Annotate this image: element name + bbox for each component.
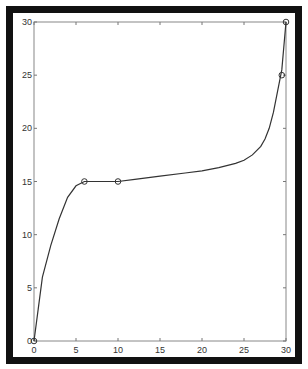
- line-chart: 051015202530051015202530: [0, 0, 308, 369]
- x-tick-label: 25: [239, 345, 249, 355]
- y-tick-label: 10: [22, 230, 32, 240]
- x-tick-label: 20: [197, 345, 207, 355]
- y-tick-label: 25: [22, 70, 32, 80]
- axes: [34, 22, 286, 341]
- x-tick-label: 5: [73, 345, 78, 355]
- y-tick-label: 15: [22, 177, 32, 187]
- y-tick-label: 20: [22, 123, 32, 133]
- x-tick-label: 10: [113, 345, 123, 355]
- plot-area-box: [34, 22, 286, 341]
- x-tick-label: 0: [31, 345, 36, 355]
- x-tick-label: 30: [281, 345, 291, 355]
- y-tick-label: 5: [27, 283, 32, 293]
- y-tick-label: 30: [22, 17, 32, 27]
- x-tick-label: 15: [155, 345, 165, 355]
